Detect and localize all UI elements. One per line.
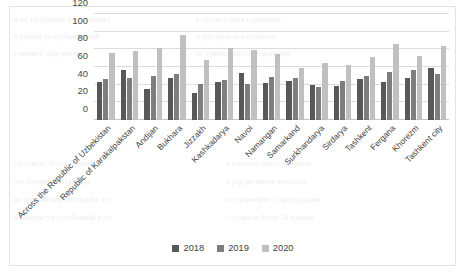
bar-2018[interactable] [192, 93, 197, 120]
bar-group [118, 14, 142, 120]
bar-2020[interactable] [157, 48, 162, 120]
bar-2020[interactable] [133, 51, 138, 120]
bar-2019[interactable] [340, 81, 345, 120]
bar-2020[interactable] [109, 53, 114, 120]
bar-2019[interactable] [364, 76, 369, 120]
bar-group [283, 14, 307, 120]
bar-2019[interactable] [316, 87, 321, 120]
bar-2019[interactable] [269, 77, 274, 120]
bar-group [354, 14, 378, 120]
y-axis-tick-label: 120 [48, 0, 88, 8]
bar-2018[interactable] [428, 68, 433, 120]
bar-group [236, 14, 260, 120]
bar-2019[interactable] [435, 74, 440, 120]
bar-2019[interactable] [245, 84, 250, 120]
legend-swatch-icon [172, 245, 179, 252]
bar-group [260, 14, 284, 120]
legend-label: 2020 [273, 243, 294, 253]
legend-swatch-icon [217, 245, 224, 252]
bar-2020[interactable] [228, 48, 233, 120]
bar-2020[interactable] [417, 56, 422, 120]
bar-2019[interactable] [222, 80, 227, 120]
y-axis-tick-label: 40 [48, 68, 88, 79]
bar-group [331, 14, 355, 120]
bar-2020[interactable] [346, 65, 351, 120]
y-axis-tick-label: 100 [48, 15, 88, 26]
legend-item[interactable]: 2019 [217, 243, 249, 253]
bar-group [402, 14, 426, 120]
y-axis-tick-label: 20 [48, 85, 88, 96]
bar-2018[interactable] [286, 81, 291, 120]
bar-2020[interactable] [393, 44, 398, 120]
legend-item[interactable]: 2020 [262, 243, 294, 253]
bar-2019[interactable] [198, 84, 203, 120]
bar-2020[interactable] [322, 63, 327, 120]
bar-2019[interactable] [151, 76, 156, 120]
bar-2020[interactable] [204, 60, 209, 120]
bar-2020[interactable] [370, 57, 375, 120]
y-axis-tick-label: 60 [48, 50, 88, 61]
bar-group [165, 14, 189, 120]
bar-2020[interactable] [251, 50, 256, 120]
y-axis: 020406080100120 [48, 14, 88, 120]
legend-item[interactable]: 2018 [172, 243, 204, 253]
bar-2018[interactable] [239, 73, 244, 120]
bars-layer [94, 14, 449, 120]
bar-2019[interactable] [411, 70, 416, 120]
bar-2018[interactable] [334, 86, 339, 120]
bar-2018[interactable] [405, 78, 410, 120]
bar-group [212, 14, 236, 120]
bar-2019[interactable] [103, 79, 108, 120]
legend-swatch-icon [262, 245, 269, 252]
bar-2019[interactable] [174, 74, 179, 120]
bar-2018[interactable] [310, 85, 315, 120]
bar-2020[interactable] [275, 54, 280, 120]
bar-group [141, 14, 165, 120]
bar-2018[interactable] [215, 82, 220, 120]
bar-2018[interactable] [144, 89, 149, 120]
bar-2018[interactable] [168, 78, 173, 120]
bar-group [378, 14, 402, 120]
bar-groups [94, 14, 449, 120]
bar-group [307, 14, 331, 120]
bar-group [425, 14, 449, 120]
bar-2019[interactable] [293, 78, 298, 120]
bar-2020[interactable] [180, 35, 185, 120]
legend-label: 2018 [183, 243, 204, 253]
bar-group [94, 14, 118, 120]
bar-2018[interactable] [97, 82, 102, 120]
bar-2018[interactable] [381, 82, 386, 120]
bar-2018[interactable] [263, 83, 268, 120]
bar-group [189, 14, 213, 120]
y-axis-tick-label: 80 [48, 32, 88, 43]
bar-2018[interactable] [357, 79, 362, 120]
legend-label: 2019 [228, 243, 249, 253]
bar-2020[interactable] [299, 68, 304, 120]
bar-2020[interactable] [441, 46, 446, 120]
y-axis-tick-label: 0 [48, 103, 88, 114]
bar-2019[interactable] [127, 78, 132, 120]
bar-2019[interactable] [387, 72, 392, 120]
chart-legend: 201820192020 [0, 243, 466, 253]
bar-2018[interactable] [121, 70, 126, 120]
